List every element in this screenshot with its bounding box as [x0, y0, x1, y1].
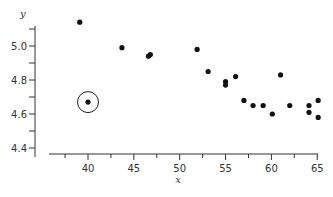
data-point: [241, 98, 246, 103]
data-point: [316, 115, 321, 120]
data-point: [250, 103, 255, 108]
data-point: [148, 52, 153, 57]
data-point: [270, 111, 275, 116]
data-point: [287, 103, 292, 108]
x-tick-label: 40: [82, 163, 95, 174]
data-point: [206, 69, 211, 74]
x-axis: 404550556065: [49, 154, 324, 174]
scatter-chart: 4.44.64.85.0 404550556065 y x: [0, 0, 333, 197]
data-point: [278, 72, 283, 77]
x-tick-label: 60: [265, 163, 278, 174]
data-point: [85, 100, 90, 105]
data-point: [306, 110, 311, 115]
y-axis: 4.44.64.85.0: [11, 26, 35, 157]
y-tick-label: 4.8: [11, 75, 27, 86]
data-point: [233, 74, 238, 79]
data-point: [195, 47, 200, 52]
data-point: [77, 20, 82, 25]
data-point: [119, 45, 124, 50]
y-tick-label: 4.6: [11, 109, 27, 120]
data-point: [306, 103, 311, 108]
x-tick-label: 55: [219, 163, 232, 174]
x-tick-label: 50: [173, 163, 186, 174]
y-tick-label: 4.4: [11, 143, 27, 154]
data-point: [261, 103, 266, 108]
data-points: [77, 20, 321, 120]
y-axis-label: y: [19, 8, 26, 19]
x-axis-label: x: [175, 174, 181, 185]
data-point: [223, 79, 228, 84]
x-tick-label: 65: [311, 163, 324, 174]
data-point: [316, 98, 321, 103]
x-tick-label: 45: [127, 163, 140, 174]
y-tick-label: 5.0: [11, 41, 27, 52]
